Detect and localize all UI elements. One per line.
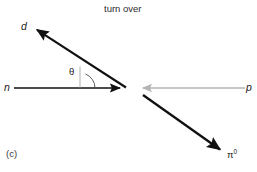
figure-title: turn over <box>104 4 142 14</box>
part-label: (c) <box>6 149 17 159</box>
angle-arc <box>86 74 96 88</box>
pion-charge-superscript: 0 <box>234 148 238 155</box>
label-deuteron: d <box>21 21 27 32</box>
label-neutron: n <box>4 82 10 93</box>
label-proton: p <box>246 82 252 93</box>
pion-arrow <box>143 95 220 150</box>
deuteron-arrow <box>37 30 126 88</box>
diagram-canvas <box>0 0 257 172</box>
physics-vector-diagram: turn over d n p θ π0 (c) <box>0 0 257 172</box>
label-theta-angle: θ <box>69 67 74 77</box>
label-pion: π0 <box>227 150 237 160</box>
